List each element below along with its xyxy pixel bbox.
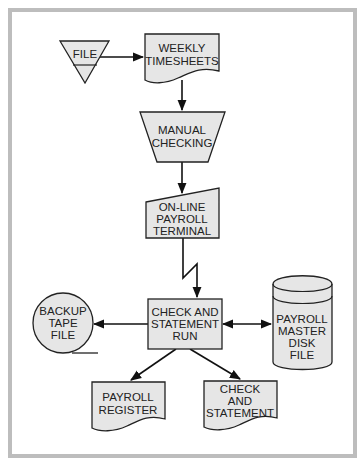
node-label: RUN <box>173 330 198 342</box>
node-label: PAYROLL <box>102 391 154 403</box>
node-check-and-statement-run: CHECK AND STATEMENT RUN <box>148 299 222 349</box>
node-online-payroll-terminal: ON-LINE PAYROLL TERMINAL <box>146 188 219 238</box>
edge-run-to-payroll-register <box>131 349 176 380</box>
node-label: TAPE <box>48 317 78 329</box>
node-label: AND <box>228 395 252 407</box>
node-payroll-register: PAYROLL REGISTER <box>92 382 165 431</box>
edge-run-to-check-statement <box>190 349 240 379</box>
node-label: PAYROLL <box>156 213 208 225</box>
node-label: DISK <box>289 337 316 349</box>
node-label: BACKUP <box>39 305 87 317</box>
node-label: PAYROLL <box>276 313 328 325</box>
node-file: FILE <box>60 41 109 83</box>
node-label: CHECK <box>220 383 261 395</box>
node-label: REGISTER <box>99 404 158 416</box>
node-label: WEEKLY <box>158 42 205 54</box>
node-label: STATEMENT <box>151 318 219 330</box>
node-payroll-master-disk-file: PAYROLL MASTER DISK FILE <box>273 276 332 370</box>
node-label: FILE <box>73 48 98 60</box>
node-label: STATEMENT <box>206 407 274 419</box>
node-label: CHECKING <box>152 137 213 149</box>
flowchart: FILE WEEKLY TIMESHEETS MANUAL CHECKING O… <box>0 0 362 464</box>
communication-link-edge <box>183 238 197 297</box>
node-label: TERMINAL <box>153 225 212 237</box>
node-label: ON-LINE <box>159 201 206 213</box>
node-check-and-statement: CHECK AND STATEMENT <box>204 381 277 430</box>
node-label: MASTER <box>278 325 326 337</box>
node-label: TIMESHEETS <box>145 55 219 67</box>
node-label: FILE <box>290 349 315 361</box>
node-weekly-timesheets: WEEKLY TIMESHEETS <box>145 34 219 83</box>
node-label: MANUAL <box>158 124 207 136</box>
node-backup-tape-file: BACKUP TAPE FILE <box>33 293 98 353</box>
node-label: CHECK AND <box>151 306 218 318</box>
node-label: FILE <box>51 329 76 341</box>
node-manual-checking: MANUAL CHECKING <box>140 112 225 162</box>
